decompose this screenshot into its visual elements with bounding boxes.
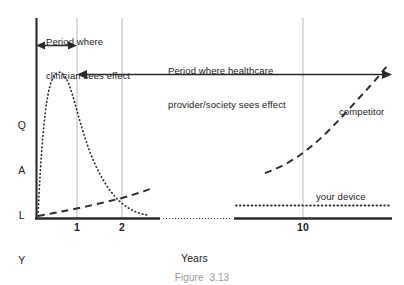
- y-axis-label-letter-q: Q: [14, 118, 30, 133]
- x-axis-title: Years: [181, 252, 208, 264]
- y-axis-label-letter-a: A: [14, 163, 30, 178]
- x-tick-label-1: 1: [69, 221, 85, 233]
- provider-period-line-1: Period where healthcare: [168, 65, 286, 76]
- x-tick-label-2: 2: [114, 221, 130, 233]
- x-tick-label-10: 10: [294, 221, 312, 233]
- y-axis-label-letter-y: Y: [14, 253, 30, 268]
- competitor-label: competitor: [339, 106, 384, 117]
- figure-caption: Figure 3.13: [0, 272, 404, 284]
- clinician-period-annotation: Period where clinician sees effect: [46, 14, 130, 104]
- clinician-period-line-2: clinician sees effect: [46, 70, 130, 81]
- your-device-early-trend: [38, 189, 150, 216]
- clinician-period-line-1: Period where: [46, 36, 130, 47]
- your-device-label: your device: [316, 191, 366, 202]
- provider-period-line-2: provider/society sees effect: [168, 99, 286, 110]
- y-axis-label-letter-l: L: [14, 208, 30, 223]
- provider-period-annotation: Period where healthcare provider/society…: [168, 43, 286, 133]
- figure-container: Period where clinician sees effect Perio…: [0, 0, 404, 285]
- y-axis-label: Q A L Y: [14, 88, 30, 285]
